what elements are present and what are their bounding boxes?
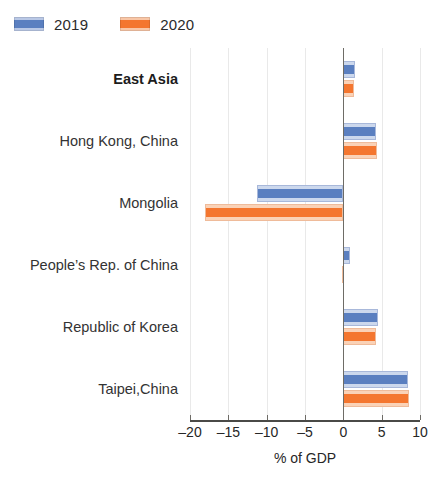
bar-2019 — [343, 371, 407, 388]
x-axis-line — [190, 420, 420, 422]
category-label: East Asia — [0, 71, 178, 87]
category-label: Republic of Korea — [0, 319, 178, 335]
bar-2020 — [205, 204, 343, 221]
gridline — [420, 48, 421, 420]
gridline — [267, 48, 268, 420]
gridline — [305, 48, 306, 420]
gridline — [382, 48, 383, 420]
bar-2020 — [343, 390, 409, 407]
bar-2020 — [343, 80, 354, 97]
x-tick-mark — [420, 415, 421, 420]
legend-swatch-2019-icon — [14, 17, 44, 31]
gridline — [228, 48, 229, 420]
bar-2019 — [257, 185, 343, 202]
legend-entry-2020: 2020 — [120, 16, 194, 33]
legend-label-2019: 2019 — [54, 16, 88, 33]
legend-swatch-2020-icon — [120, 17, 150, 31]
bar-2019 — [343, 309, 378, 326]
x-ticklabel: –20 — [178, 424, 201, 440]
category-axis-labels: East AsiaHong Kong, ChinaMongoliaPeople’… — [0, 48, 186, 420]
legend-label-2020: 2020 — [160, 16, 194, 33]
bar-2020 — [343, 328, 375, 345]
x-ticklabel: –15 — [217, 424, 240, 440]
x-ticklabel: –10 — [255, 424, 278, 440]
bar-chart: East AsiaHong Kong, ChinaMongoliaPeople’… — [0, 48, 428, 481]
category-label: People’s Rep. of China — [0, 257, 178, 273]
x-ticklabel: 0 — [339, 424, 347, 440]
plot-area — [190, 48, 420, 420]
chart-legend: 2019 2020 — [0, 0, 428, 48]
x-axis-title: % of GDP — [190, 450, 420, 466]
category-label: Hong Kong, China — [0, 133, 178, 149]
bar-2020 — [343, 142, 377, 159]
x-ticklabel: –5 — [297, 424, 313, 440]
zero-axis-line — [343, 48, 344, 420]
category-label: Mongolia — [0, 195, 178, 211]
x-ticklabel: 10 — [412, 424, 428, 440]
gridline — [190, 48, 191, 420]
legend-entry-2019: 2019 — [14, 16, 88, 33]
category-label: Taipei,China — [0, 381, 178, 397]
bar-2019 — [343, 61, 355, 78]
x-ticklabel: 5 — [378, 424, 386, 440]
x-axis-ticklabels: –20–15–10–50510 — [190, 424, 420, 446]
bar-2019 — [343, 123, 376, 140]
bar-2019 — [343, 247, 350, 264]
